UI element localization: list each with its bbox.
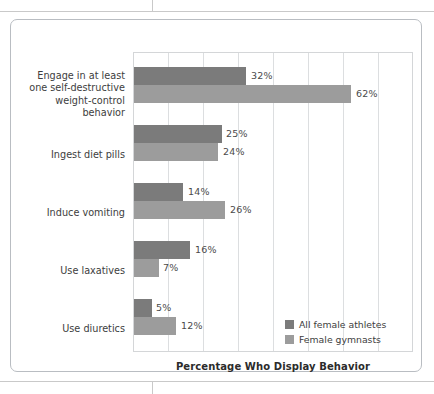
legend-item-female-gymnasts[interactable]: Female gymnasts (285, 333, 405, 346)
legend-swatch-icon-all-female-athletes (285, 320, 294, 329)
bar-group-2: 14% 26% (134, 183, 412, 219)
bar-value-3-female-gymnasts: 7% (163, 259, 178, 277)
bar-value-0-female-gymnasts: 62% (356, 85, 378, 103)
bar-group-1: 25% 24% (134, 125, 412, 161)
bar-group-3: 16% 7% (134, 241, 412, 277)
legend-label-female-gymnasts: Female gymnasts (299, 334, 381, 345)
legend-label-all-female-athletes: All female athletes (299, 319, 386, 330)
page-crop-rule-top (0, 11, 434, 12)
bar-value-2-all-female-athletes: 14% (188, 183, 210, 201)
bar-4-all-female-athletes[interactable] (134, 299, 152, 317)
category-label-0: Engage in at least one self-destructive … (13, 70, 125, 120)
page-crop-tick-top (152, 0, 153, 11)
bar-3-all-female-athletes[interactable] (134, 241, 190, 259)
legend-item-all-female-athletes[interactable]: All female athletes (285, 318, 405, 331)
category-label-2: Induce vomiting (13, 207, 125, 219)
bar-1-female-gymnasts[interactable] (134, 143, 218, 161)
legend-swatch-icon-female-gymnasts (285, 335, 294, 344)
bar-value-2-female-gymnasts: 26% (230, 201, 252, 219)
bar-value-1-female-gymnasts: 24% (223, 143, 245, 161)
bar-value-4-all-female-athletes: 5% (156, 299, 171, 317)
chart-legend: All female athletes Female gymnasts (285, 318, 405, 348)
bar-0-female-gymnasts[interactable] (134, 85, 351, 103)
bar-3-female-gymnasts[interactable] (134, 259, 159, 277)
category-label-3: Use laxatives (13, 265, 125, 277)
figure-frame: Engage in at least one self-destructive … (10, 19, 422, 372)
page-crop-tick-bottom (152, 382, 153, 394)
bar-4-female-gymnasts[interactable] (134, 317, 176, 335)
bar-value-3-all-female-athletes: 16% (195, 241, 217, 259)
plot-area: 32% 62% 25% 24% 14% 26% 16% 7% 5 (133, 52, 413, 352)
x-axis-title: Percentage Who Display Behavior (133, 361, 413, 372)
bar-0-all-female-athletes[interactable] (134, 67, 246, 85)
page-crop-rule-bottom (0, 381, 434, 382)
category-axis-labels: Engage in at least one self-destructive … (11, 52, 125, 352)
category-label-4: Use diuretics (13, 323, 125, 335)
bar-group-0: 32% 62% (134, 67, 412, 103)
category-label-1: Ingest diet pills (13, 149, 125, 161)
bar-value-0-all-female-athletes: 32% (251, 67, 273, 85)
bar-2-all-female-athletes[interactable] (134, 183, 183, 201)
bar-value-4-female-gymnasts: 12% (181, 317, 203, 335)
bar-2-female-gymnasts[interactable] (134, 201, 225, 219)
bar-value-1-all-female-athletes: 25% (226, 125, 248, 143)
bar-1-all-female-athletes[interactable] (134, 125, 222, 143)
